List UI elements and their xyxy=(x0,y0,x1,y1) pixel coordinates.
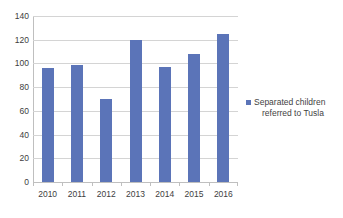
x-axis-label-2012: 2012 xyxy=(92,190,121,199)
y-axis-tick-label: 0 xyxy=(3,178,29,187)
x-tick-mark xyxy=(150,182,151,186)
legend-item: Separated children referred to Tusla xyxy=(246,97,341,120)
bar-2011 xyxy=(71,65,83,182)
y-axis-tick-labels: 020406080100120140 xyxy=(0,16,29,182)
y-axis-tick-label: 140 xyxy=(3,12,29,21)
x-axis-label-2015: 2015 xyxy=(180,190,209,199)
x-tick-mark xyxy=(62,182,63,186)
x-axis-labels: 2010201120122013201420152016 xyxy=(33,190,238,204)
x-tick-mark xyxy=(209,182,210,186)
x-tick-mark xyxy=(179,182,180,186)
legend-color-swatch xyxy=(246,100,251,105)
y-axis-tick-label: 80 xyxy=(3,83,29,92)
legend-label-line-1: Separated children xyxy=(254,97,325,108)
bar-series xyxy=(33,16,238,182)
bar-2012 xyxy=(100,99,112,182)
bar-2015 xyxy=(188,54,200,182)
x-tick-mark xyxy=(237,182,238,186)
y-axis-tick-label: 100 xyxy=(3,59,29,68)
bar-2013 xyxy=(130,40,142,182)
legend-label: Separated children referred to Tusla xyxy=(254,97,325,120)
bar-chart: 020406080100120140 201020112012201320142… xyxy=(0,0,343,218)
x-axis-label-2010: 2010 xyxy=(33,190,62,199)
x-axis-label-2016: 2016 xyxy=(209,190,238,199)
y-axis-tick-label: 40 xyxy=(3,130,29,139)
bar-2010 xyxy=(42,68,54,182)
legend-label-line-2: referred to Tusla xyxy=(254,108,325,119)
y-axis-tick-label: 60 xyxy=(3,107,29,116)
plot-area xyxy=(33,16,238,182)
bar-2016 xyxy=(217,34,229,182)
x-tick-mark xyxy=(33,182,34,186)
bar-2014 xyxy=(159,67,171,182)
x-axis-label-2013: 2013 xyxy=(121,190,150,199)
x-axis-label-2011: 2011 xyxy=(62,190,91,199)
y-axis-tick-label: 120 xyxy=(3,35,29,44)
x-tick-mark xyxy=(92,182,93,186)
x-tick-mark xyxy=(121,182,122,186)
x-axis-tick-marks xyxy=(33,182,238,187)
y-axis-tick-label: 20 xyxy=(3,154,29,163)
x-axis-label-2014: 2014 xyxy=(150,190,179,199)
chart-legend: Separated children referred to Tusla xyxy=(246,97,341,120)
